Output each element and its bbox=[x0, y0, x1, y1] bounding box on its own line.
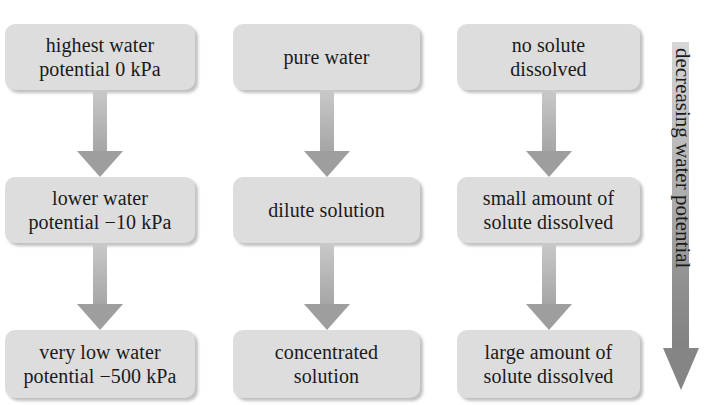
arrow-head bbox=[304, 304, 350, 330]
arrow-stem bbox=[542, 90, 556, 151]
arrow-head bbox=[526, 151, 572, 177]
node-pure-water: pure water bbox=[233, 24, 420, 90]
node-label: large amount of solute dissolved bbox=[484, 340, 614, 389]
arrow-c1-to-c2 bbox=[526, 90, 572, 177]
arrow-stem bbox=[320, 90, 334, 151]
node-very-low-water-potential: very low water potential −500 kPa bbox=[5, 330, 195, 398]
node-small-amount-solute: small amount of solute dissolved bbox=[457, 177, 640, 243]
node-label: lower water potential −10 kPa bbox=[29, 186, 172, 235]
arrow-head bbox=[77, 304, 123, 330]
node-label: pure water bbox=[284, 45, 370, 69]
arrow-head bbox=[663, 348, 699, 390]
node-no-solute-dissolved: no solute dissolved bbox=[457, 24, 640, 90]
arrow-b1-to-b2 bbox=[304, 90, 350, 177]
arrow-stem bbox=[320, 243, 334, 304]
arrow-c2-to-c3 bbox=[526, 243, 572, 330]
decreasing-water-potential-label: decreasing water potential bbox=[669, 48, 697, 348]
node-label: concentrated solution bbox=[275, 340, 378, 389]
arrow-b2-to-b3 bbox=[304, 243, 350, 330]
node-lower-water-potential: lower water potential −10 kPa bbox=[5, 177, 195, 243]
node-label: small amount of solute dissolved bbox=[483, 186, 614, 235]
arrow-a1-to-a2 bbox=[77, 90, 123, 177]
node-dilute-solution: dilute solution bbox=[233, 177, 420, 243]
arrow-head bbox=[77, 151, 123, 177]
node-label: very low water potential −500 kPa bbox=[23, 340, 176, 389]
arrow-stem bbox=[93, 243, 107, 304]
arrow-head bbox=[526, 304, 572, 330]
arrow-a2-to-a3 bbox=[77, 243, 123, 330]
arrow-head bbox=[304, 151, 350, 177]
node-highest-water-potential: highest water potential 0 kPa bbox=[5, 24, 195, 90]
node-label: no solute dissolved bbox=[510, 33, 586, 82]
node-large-amount-solute: large amount of solute dissolved bbox=[457, 330, 640, 398]
arrow-stem bbox=[542, 243, 556, 304]
node-concentrated-solution: concentrated solution bbox=[233, 330, 420, 398]
diagram-canvas: highest water potential 0 kPa lower wate… bbox=[0, 0, 728, 405]
node-label: highest water potential 0 kPa bbox=[39, 33, 160, 82]
node-label: dilute solution bbox=[268, 198, 385, 222]
arrow-stem bbox=[93, 90, 107, 151]
